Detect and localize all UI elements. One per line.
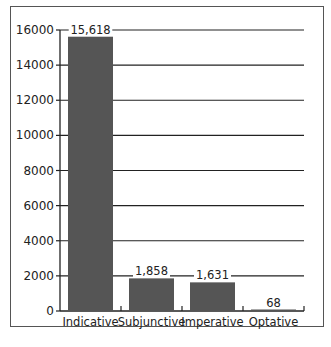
bar-imperative <box>190 282 235 311</box>
x-tick-label: Optative <box>249 315 299 329</box>
y-tick-label: 6000 <box>23 199 54 213</box>
bar-subjunctive <box>129 278 174 311</box>
x-tick-label: Indicative <box>62 315 118 329</box>
bar-optative <box>251 310 296 312</box>
bar-chart: 020004000600080001000012000140001600015,… <box>0 0 331 347</box>
y-tick-label: 0 <box>46 304 54 318</box>
x-tick-label: Imperative <box>181 315 243 329</box>
y-tick-label: 10000 <box>16 128 54 142</box>
y-tick-label: 4000 <box>23 234 54 248</box>
y-tick-label: 8000 <box>23 164 54 178</box>
value-label: 15,618 <box>70 23 110 37</box>
y-tick-label: 12000 <box>16 93 54 107</box>
y-tick-label: 14000 <box>16 58 54 72</box>
value-label: 68 <box>266 296 281 310</box>
y-tick-label: 16000 <box>16 23 54 37</box>
bar-indicative <box>68 37 113 311</box>
x-tick-label: Subjunctive <box>118 315 186 329</box>
value-label: 1,858 <box>135 264 168 278</box>
y-tick-label: 2000 <box>23 269 54 283</box>
value-label: 1,631 <box>196 268 229 282</box>
